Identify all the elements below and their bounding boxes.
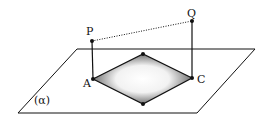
segment-pq-dotted <box>92 21 192 41</box>
segment-pa <box>92 41 93 79</box>
geometry-diagram: P Q A C (α) <box>0 0 273 120</box>
point-d <box>141 102 145 106</box>
label-a: A <box>82 77 92 90</box>
label-q: Q <box>187 7 196 20</box>
label-plane-alpha: (α) <box>34 94 50 107</box>
point-c <box>190 76 194 80</box>
point-b <box>141 52 145 56</box>
label-c: C <box>197 73 205 86</box>
label-p: P <box>86 25 94 38</box>
point-p <box>90 39 94 43</box>
diagram-canvas: P Q A C (α) <box>0 0 273 120</box>
rhombus-abcd <box>93 54 192 104</box>
point-a <box>91 77 95 81</box>
